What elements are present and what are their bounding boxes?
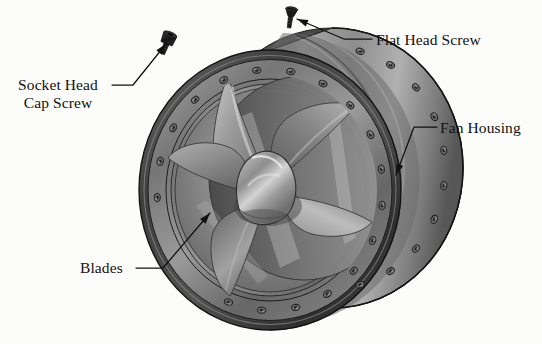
ducted-fan-illustration [0, 0, 542, 344]
bolt-hole [257, 307, 266, 314]
bolt-hole [440, 181, 447, 190]
leader-arrowhead-flat-head-screw [297, 19, 309, 27]
bolt-hole [154, 193, 161, 202]
flat-head-screw-part [283, 6, 298, 29]
callout-label-flat-head-screw: Flat Head Screw [376, 31, 481, 49]
callout-label-line-1: Fan Housing [440, 119, 521, 136]
callout-label-blades: Blades [80, 259, 123, 277]
callout-label-line-1: Flat Head Screw [376, 31, 481, 48]
callout-label-line-2: Cap Screw [24, 94, 92, 111]
callout-label-socket-head-cap-screw: Socket Head Cap Screw [6, 76, 110, 113]
callout-label-line-1: Blades [80, 259, 123, 276]
hub-spinner [236, 151, 295, 224]
callout-label-line-1: Socket Head [18, 76, 98, 93]
callout-label-fan-housing: Fan Housing [440, 119, 521, 137]
fan-housing-part [139, 28, 463, 330]
bolt-hole [378, 201, 385, 210]
figure-canvas: Socket Head Cap Screw Flat Head Screw Fa… [0, 0, 542, 344]
